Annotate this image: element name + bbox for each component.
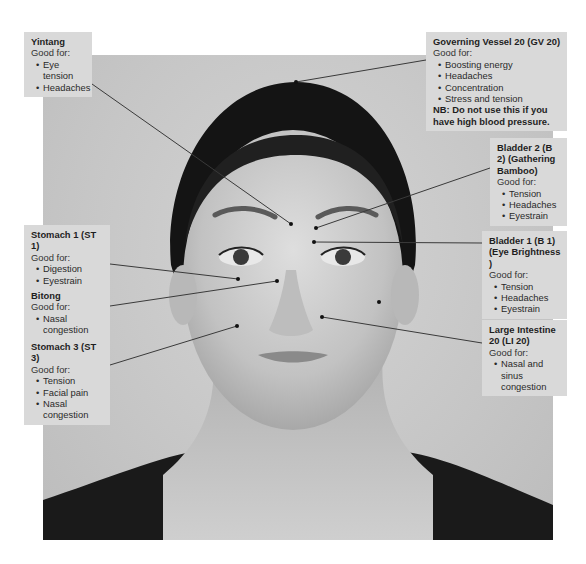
good-for-label: Good for:: [31, 252, 104, 263]
label-st1: Stomach 1 (ST 1)Good for:DigestionEyestr…: [24, 225, 110, 290]
benefit-item: Tension: [502, 188, 561, 199]
point-title: Stomach 3 (ST 3): [31, 341, 104, 364]
good-for-label: Good for:: [497, 176, 561, 187]
benefit-item: Eyestrain: [36, 275, 104, 286]
benefit-item: Eye tension: [36, 59, 86, 82]
benefit-list: TensionFacial painNasal congestion: [31, 375, 104, 421]
benefit-list: TensionHeadachesEyestrain: [497, 188, 561, 222]
benefit-item: Headaches: [494, 292, 561, 303]
good-for-label: Good for:: [31, 364, 104, 375]
benefit-item: Tension: [36, 375, 104, 386]
benefit-item: Digestion: [36, 263, 104, 274]
benefit-list: Eye tensionHeadaches: [31, 59, 86, 93]
point-title: Yintang: [31, 36, 86, 47]
point-title: Bladder 1 (B 1) (Eye Brightness ): [489, 235, 561, 269]
label-yintang: YintangGood for:Eye tensionHeadaches: [24, 32, 92, 97]
point-title: Bitong: [31, 290, 104, 301]
label-b2: Bladder 2 (B 2) (Gathering Bamboo)Good f…: [490, 138, 567, 226]
benefit-item: Headaches: [36, 82, 86, 93]
benefit-list: DigestionEyestrain: [31, 263, 104, 286]
warning-note: NB: Do not use this if you have high blo…: [433, 104, 561, 127]
benefit-item: Stress and tension: [438, 93, 561, 104]
good-for-label: Good for:: [31, 47, 86, 58]
good-for-label: Good for:: [31, 301, 104, 312]
benefit-item: Facial pain: [36, 387, 104, 398]
benefit-item: Nasal and sinus congestion: [494, 358, 561, 392]
label-b1: Bladder 1 (B 1) (Eye Brightness )Good fo…: [482, 231, 567, 319]
benefit-item: Concentration: [438, 82, 561, 93]
benefit-item: Eyestrain: [494, 303, 561, 314]
benefit-item: Tension: [494, 281, 561, 292]
benefit-item: Eyestrain: [502, 210, 561, 221]
label-gv20: Governing Vessel 20 (GV 20)Good for:Boos…: [426, 32, 567, 131]
benefit-list: TensionHeadachesEyestrain: [489, 281, 561, 315]
benefit-item: Nasal congestion: [36, 313, 104, 336]
benefit-item: Headaches: [438, 70, 561, 81]
label-bitong: BitongGood for:Nasal congestion: [24, 286, 110, 340]
good-for-label: Good for:: [433, 47, 561, 58]
good-for-label: Good for:: [489, 347, 561, 358]
benefit-list: Nasal and sinus congestion: [489, 358, 561, 392]
point-title: Bladder 2 (B 2) (Gathering Bamboo): [497, 142, 561, 176]
benefit-item: Boosting energy: [438, 59, 561, 70]
benefit-list: Nasal congestion: [31, 313, 104, 336]
benefit-item: Nasal congestion: [36, 398, 104, 421]
label-st3: Stomach 3 (ST 3)Good for:TensionFacial p…: [24, 337, 110, 425]
point-title: Large Intestine 20 (LI 20): [489, 324, 561, 347]
benefit-list: Boosting energyHeadachesConcentrationStr…: [433, 59, 561, 105]
good-for-label: Good for:: [489, 269, 561, 280]
benefit-item: Headaches: [502, 199, 561, 210]
label-li20: Large Intestine 20 (LI 20)Good for:Nasal…: [482, 320, 567, 396]
point-title: Stomach 1 (ST 1): [31, 229, 104, 252]
point-title: Governing Vessel 20 (GV 20): [433, 36, 561, 47]
